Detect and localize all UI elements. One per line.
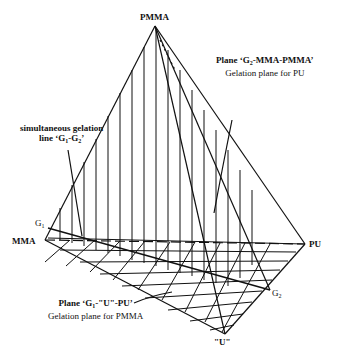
annotation-plane-pmma: Plane ‘G1-"U"-PU’ Gelation plane for PMM… xyxy=(48,298,143,321)
label-g1: G1 xyxy=(35,218,45,231)
label-u: "U" xyxy=(214,337,231,347)
label-pu: PU xyxy=(309,239,321,249)
label-mma: MMA xyxy=(12,236,36,246)
gelation-diagram xyxy=(0,0,337,349)
annotation-simultaneous-gelation: simultaneous gelation line ‘G1-G2’ xyxy=(20,123,103,146)
label-pmma: PMMA xyxy=(140,12,169,22)
label-g2: G2 xyxy=(272,288,282,301)
edge-pmma-u xyxy=(155,26,225,334)
leader-simul xyxy=(68,150,82,236)
annotation-plane-pu: Plane ‘G2-MMA-PMMA’ Gelation plane for P… xyxy=(216,55,314,78)
